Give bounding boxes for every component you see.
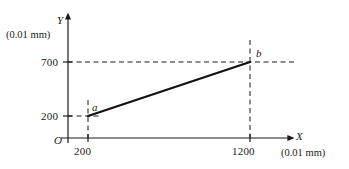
- data-point-label-b: b: [256, 48, 262, 59]
- data-point-label-a: a: [92, 102, 98, 113]
- y-tick-label-200: 200: [41, 111, 58, 122]
- x-tick-label-1200: 1200: [232, 146, 255, 157]
- x-tick-label-200: 200: [74, 146, 91, 157]
- x-axis-name-label: X: [296, 131, 303, 142]
- y-tick-label-700: 700: [41, 57, 58, 68]
- data-segment-ab: [88, 62, 250, 116]
- y-axis-name-label: Y: [57, 15, 63, 26]
- figure-container: (0.01 mm) Y X (0.01 mm) 700 200 200 1200…: [0, 0, 349, 169]
- y-axis-unit-label: (0.01 mm): [6, 30, 50, 41]
- origin-label: O: [54, 135, 62, 146]
- plot-area: [0, 0, 349, 169]
- x-axis-unit-label: (0.01 mm): [281, 148, 325, 159]
